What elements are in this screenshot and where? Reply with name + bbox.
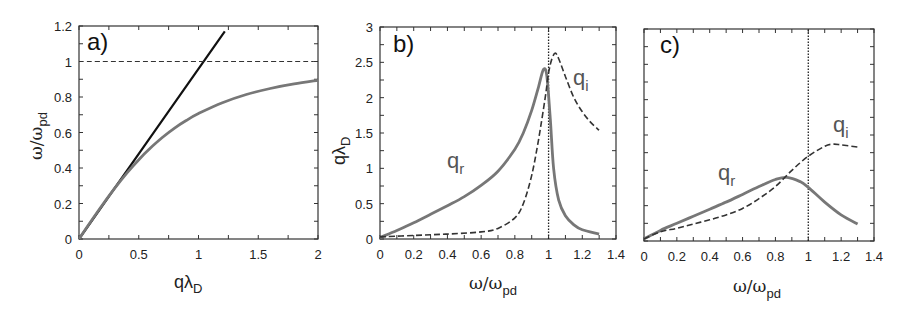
- y-tick-label: 0.5: [355, 197, 373, 212]
- series-q_r: [644, 177, 858, 239]
- x-axis-label-sub: D: [193, 281, 202, 296]
- x-axis-label-a: qλD: [174, 272, 202, 296]
- x-tick-label: 1.4: [607, 247, 625, 262]
- curve-label-sub: r: [730, 172, 735, 189]
- curve-label-sub: r: [459, 160, 464, 177]
- y-tick-label: 0: [366, 232, 373, 247]
- panel-label-b: b): [393, 30, 414, 57]
- x-tick-label: 2: [314, 247, 321, 262]
- x-tick-label: 1: [195, 247, 202, 262]
- y-axis-label-sub: pd: [35, 112, 50, 126]
- x-tick-label: 1.2: [573, 247, 591, 262]
- x-tick-label: 1: [805, 249, 812, 264]
- y-tick-label: 1.2: [54, 19, 72, 34]
- x-axis-label-sub: pd: [766, 286, 780, 301]
- panel-label-c: c): [660, 31, 680, 58]
- plot-frame-a: [79, 26, 318, 239]
- curve-label-qr-b: qr: [447, 148, 464, 177]
- x-tick-label: 1.5: [249, 247, 267, 262]
- curve-label-sub: i: [845, 124, 848, 141]
- plot-frame-b: [380, 27, 616, 239]
- panel-c: 00.20.40.60.811.21.4 c) qr qi ω/ωpd: [640, 29, 883, 301]
- curve-label-main: q: [718, 160, 730, 185]
- x-tick-label: 0.4: [701, 249, 719, 264]
- x-tick-label: 1: [545, 247, 552, 262]
- x-tick-label: 0.6: [734, 249, 752, 264]
- panel-label-a: a): [87, 28, 108, 55]
- x-axis-label-c: ω/ωpd: [733, 276, 781, 301]
- y-axis-label-main: ω/ω: [26, 126, 46, 160]
- x-tick-label: 0.6: [472, 247, 490, 262]
- curves-a: [79, 31, 318, 239]
- curve-label-sub: i: [585, 77, 588, 94]
- y-tick-label: 2.5: [355, 55, 373, 70]
- curve-label-main: q: [573, 65, 585, 90]
- series-dispersion: [79, 80, 318, 239]
- tick-labels-a: 00.511.5200.20.40.60.811.2: [54, 19, 322, 262]
- x-tick-label: 0: [376, 247, 383, 262]
- y-tick-label: 0.2: [54, 197, 72, 212]
- x-axis-label-b: ω/ωpd: [469, 273, 517, 298]
- y-tick-label: 0.4: [54, 161, 72, 176]
- curve-label-qi-b: qi: [573, 65, 589, 94]
- x-tick-label: 0.8: [766, 249, 784, 264]
- panel-b: 00.20.40.60.811.21.400.511.522.53 b) qr …: [329, 20, 625, 298]
- x-tick-label: 1.2: [832, 249, 850, 264]
- curves-b: [380, 27, 599, 239]
- x-tick-label: 0.8: [506, 247, 524, 262]
- y-axis-label-a: ω/ωpd: [26, 112, 50, 160]
- x-axis-label-main: ω/ω: [469, 273, 503, 293]
- x-axis-label-main: qλ: [174, 272, 193, 292]
- panel-a: 00.511.5200.20.40.60.811.2 a) qλD ω/ωpd: [26, 19, 322, 296]
- y-tick-label: 2: [366, 91, 373, 106]
- curve-label-qi-c: qi: [833, 112, 849, 141]
- x-tick-label: 0.4: [438, 247, 456, 262]
- x-tick-label: 0: [640, 249, 647, 264]
- y-tick-label: 0: [65, 232, 72, 247]
- curves-c: [644, 29, 858, 241]
- y-axis-label-sub: D: [338, 137, 353, 146]
- y-tick-label: 1: [65, 55, 72, 70]
- x-tick-label: 0.2: [405, 247, 423, 262]
- y-axis-label-b: qλD: [329, 137, 353, 165]
- y-tick-label: 0.6: [54, 126, 72, 141]
- tick-labels-c: 00.20.40.60.811.21.4: [640, 249, 883, 264]
- y-tick-label: 1: [366, 161, 373, 176]
- curve-label-main: q: [447, 148, 459, 173]
- ticks-b: [380, 27, 616, 239]
- x-tick-label: 0.5: [130, 247, 148, 262]
- y-tick-label: 3: [366, 20, 373, 35]
- y-tick-label: 0.8: [54, 90, 72, 105]
- series-q_r: [380, 69, 599, 238]
- x-tick-label: 0: [75, 247, 82, 262]
- y-axis-label-main: qλ: [329, 146, 349, 165]
- x-axis-label-main: ω/ω: [733, 276, 767, 296]
- x-tick-label: 1.4: [865, 249, 883, 264]
- x-axis-label-sub: pd: [502, 283, 516, 298]
- figure: 00.511.5200.20.40.60.811.2 a) qλD ω/ωpd …: [0, 0, 912, 315]
- y-tick-label: 1.5: [355, 126, 373, 141]
- curve-label-main: q: [833, 112, 845, 137]
- curve-label-qr-c: qr: [718, 160, 735, 189]
- series-q_i: [380, 53, 599, 237]
- x-tick-label: 0.2: [668, 249, 686, 264]
- ticks-a: [79, 26, 318, 239]
